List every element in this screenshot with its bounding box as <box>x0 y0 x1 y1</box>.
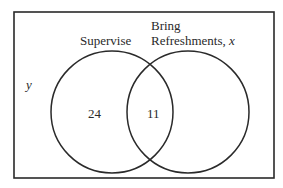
venn-diagram <box>0 0 283 188</box>
supervise-label: Supervise <box>80 34 131 48</box>
refreshments-variable: x <box>229 33 235 48</box>
supervise-only-value: 24 <box>88 107 101 121</box>
intersection-value: 11 <box>147 107 160 121</box>
universe-label: y <box>26 78 32 92</box>
refreshments-label-line2: Refreshments, x <box>151 34 235 48</box>
refreshments-label-text: Refreshments, <box>151 33 226 48</box>
refreshments-circle <box>127 51 249 173</box>
refreshments-label-line1: Bring <box>151 19 181 33</box>
